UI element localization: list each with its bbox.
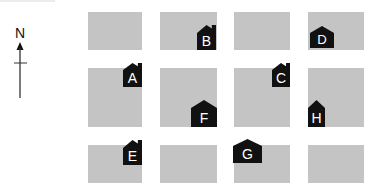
compass-label: N <box>15 25 25 41</box>
house-label: H <box>308 111 325 126</box>
house-label: D <box>310 32 334 47</box>
house-label: C <box>272 71 290 86</box>
house-d: D <box>310 26 334 48</box>
house-e: E <box>123 140 142 165</box>
city-block-r1-c3 <box>234 12 290 50</box>
city-block-r3-c2 <box>160 145 217 183</box>
house-b: B <box>197 25 216 50</box>
city-block-r1-c1 <box>88 12 142 50</box>
house-label: F <box>191 111 217 126</box>
house-f: F <box>191 100 217 127</box>
house-label: B <box>197 34 216 49</box>
city-block-r3-c4 <box>308 145 364 183</box>
house-label: E <box>123 149 142 164</box>
house-g: G <box>233 139 262 163</box>
house-label: A <box>123 71 142 86</box>
north-arrow-icon: N <box>0 0 40 110</box>
house-label: G <box>233 147 262 162</box>
house-c: C <box>272 63 290 87</box>
house-h: H <box>308 100 325 127</box>
north-compass: N <box>0 0 40 110</box>
house-a: A <box>123 63 142 87</box>
